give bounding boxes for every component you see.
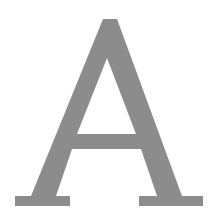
letter-a-glyph: A (0, 0, 215, 222)
letter-a-icon: A (0, 0, 215, 222)
